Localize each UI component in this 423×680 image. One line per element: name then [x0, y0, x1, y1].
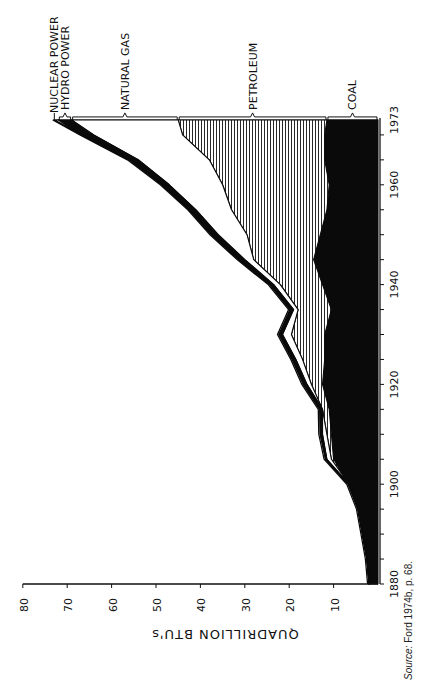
petroleum-bracket [179, 113, 326, 120]
value-tick-label: 50 [151, 598, 164, 612]
source-text: Ford 1974b, p. 68. [403, 561, 414, 643]
year-tick-label: 1973 [388, 106, 401, 134]
value-tick-label: 80 [18, 598, 31, 612]
hydro-bracket [59, 113, 70, 120]
year-tick-label: 1900 [388, 470, 401, 498]
coal-label: COAL [346, 79, 359, 110]
year-tick-label: 1960 [388, 171, 401, 199]
gas-bracket [73, 113, 178, 120]
source-note: Source: Ford 1974b, p. 68. [403, 550, 417, 680]
gas-label: NATURAL GAS [119, 33, 132, 110]
value-tick-label: 30 [240, 598, 253, 612]
value-tick-label: 60 [107, 598, 120, 612]
series-labels: COALPETROLEUMNATURAL GASHYDRO POWERNUCLE… [48, 16, 377, 120]
year-tick-label: 1940 [388, 271, 401, 299]
value-tick-label: 40 [195, 598, 208, 612]
value-tick-label: 10 [329, 598, 342, 612]
petroleum-label: PETROLEUM [247, 43, 260, 110]
nuclear-label: NUCLEAR POWER [48, 16, 61, 113]
value-tick-label: 70 [62, 598, 75, 612]
y-axis-title: QUADRILLION BTU's [135, 626, 315, 642]
year-tick-label: 1880 [388, 570, 401, 598]
energy-consumption-chart: 1020304050607080188019001920194019601973… [0, 0, 423, 680]
coal-bracket [328, 113, 377, 120]
source-prefix: Source: [403, 646, 414, 680]
stacked-areas [53, 120, 378, 584]
value-tick-label: 20 [284, 598, 297, 612]
year-tick-label: 1920 [388, 370, 401, 398]
